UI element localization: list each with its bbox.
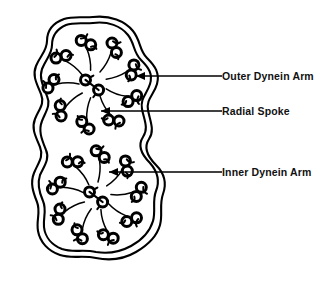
radial-spoke [101,210,107,231]
outer-doublet-b-tubule [91,146,101,156]
diagram-canvas [0,0,335,295]
radial-spoke [62,187,83,192]
axoneme-group [43,34,147,245]
radial-spoke [65,61,82,75]
leader-radial-spoke [101,107,222,115]
radial-spoke [87,98,91,120]
leader-outer-dynein-arm [136,72,222,80]
cilium-diagram-figure: Outer Dynein Arm Radial Spoke Inner Dyne… [0,0,335,295]
radial-spoke [65,93,82,107]
radial-spoke [98,160,100,182]
outer-doublet-b-tubule [62,157,72,167]
outer-doublet-b-tubule [84,124,94,134]
central-pair-projection [93,94,95,97]
radial-spoke [82,209,91,229]
radial-spoke [106,89,127,97]
outer-doublet-b-tubule [47,184,57,194]
central-pair-projection [97,206,99,209]
radial-spoke [100,53,111,72]
radial-spoke [106,72,127,80]
radial-spoke [65,202,85,212]
outer-doublet-b-tubule [114,116,124,126]
upper-axoneme [43,34,142,134]
radial-spoke [76,167,89,185]
lower-axoneme [47,146,147,245]
radial-spoke [109,204,127,216]
arrowhead [109,168,118,176]
radial-spoke [111,192,133,195]
label-radial-spoke: Radial Spoke [222,106,290,117]
label-outer-dynein-arm: Outer Dynein Arm [222,71,314,82]
radial-spoke [87,49,91,71]
label-inner-dynein-arm: Inner Dynein Arm [222,167,312,178]
outer-doublet-b-tubule [43,83,53,93]
radial-spoke [57,83,79,84]
